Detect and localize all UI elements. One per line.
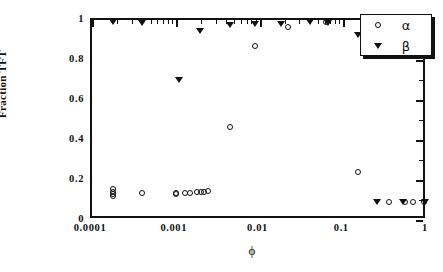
y-tick-label: 0.2 [69, 173, 84, 184]
legend-entry: β [361, 36, 431, 57]
data-point-α [110, 193, 116, 199]
data-point-β [196, 28, 204, 34]
data-point-β [138, 20, 146, 26]
y-tick-label: 1 [78, 13, 84, 24]
x-tick-major [92, 27, 94, 34]
legend-entry: α [361, 15, 431, 36]
y-tick-label: 0 [78, 213, 84, 224]
x-tick-label: 0.0001 [74, 222, 106, 233]
y-axis-title: Fraction TFT [0, 50, 8, 118]
y-tick-label: 0.4 [69, 133, 84, 144]
y-tick-label: 0.8 [69, 53, 84, 64]
x-tick-minor [216, 20, 217, 24]
data-point-α [173, 191, 179, 197]
x-tick-minor [172, 20, 173, 24]
data-point-β [277, 21, 285, 27]
data-point-α [205, 188, 211, 194]
x-tick-label: 0.01 [247, 222, 268, 233]
y-tick-major [416, 100, 423, 102]
y-tick-minor [419, 160, 423, 161]
open-circle-marker [375, 22, 381, 28]
x-tick-major [92, 41, 94, 48]
x-axis-title: ϕ [249, 243, 256, 259]
data-point-β [421, 199, 429, 205]
x-tick-major [92, 20, 94, 27]
x-tick-minor [299, 20, 300, 24]
x-tick-label: 0.1 [334, 222, 349, 233]
chart-legend: αβ [360, 14, 432, 56]
data-point-α [187, 190, 193, 196]
data-point-α [252, 43, 258, 49]
data-point-β [324, 20, 332, 26]
data-point-β [399, 199, 407, 205]
data-point-β [306, 19, 314, 25]
data-point-α [227, 124, 233, 130]
data-point-β [109, 19, 117, 25]
legend-label: α [402, 18, 411, 33]
legend-label: β [402, 39, 410, 54]
x-tick-minor [241, 20, 242, 24]
x-tick-minor [132, 20, 133, 24]
x-tick-major [92, 34, 94, 41]
x-tick-major [260, 20, 262, 27]
x-tick-major [176, 20, 178, 27]
data-point-α [285, 24, 291, 30]
x-tick-minor [168, 20, 169, 24]
filled-triangle-marker [374, 43, 382, 49]
x-tick-label: 1 [422, 222, 428, 233]
x-tick-major [343, 20, 345, 27]
x-tick-minor [157, 20, 158, 24]
data-point-β [226, 22, 234, 28]
data-point-β [251, 21, 259, 27]
y-tick-label: 0.6 [69, 93, 84, 104]
x-tick-major [92, 48, 94, 55]
x-tick-minor [201, 20, 202, 24]
x-tick-minor [151, 20, 152, 24]
y-tick-major [416, 220, 423, 222]
data-point-α [410, 199, 416, 205]
x-tick-label: 0.001 [160, 222, 187, 233]
x-tick-minor [318, 20, 319, 24]
data-point-β [373, 199, 381, 205]
data-point-α [139, 190, 145, 196]
data-point-α [386, 199, 392, 205]
y-tick-minor [419, 120, 423, 121]
y-tick-minor [419, 80, 423, 81]
y-tick-major [416, 60, 423, 62]
y-tick-major [416, 180, 423, 182]
y-tick-minor [92, 199, 96, 200]
x-tick-minor [335, 20, 336, 24]
chart-figure: Fraction TFT ϕ 0.00010.0010.010.11 00.20… [0, 0, 443, 272]
x-tick-minor [163, 20, 164, 24]
x-tick-minor [339, 20, 340, 24]
y-tick-major [416, 140, 423, 142]
data-point-β [175, 77, 183, 83]
x-tick-minor [247, 20, 248, 24]
data-point-α [355, 169, 361, 175]
